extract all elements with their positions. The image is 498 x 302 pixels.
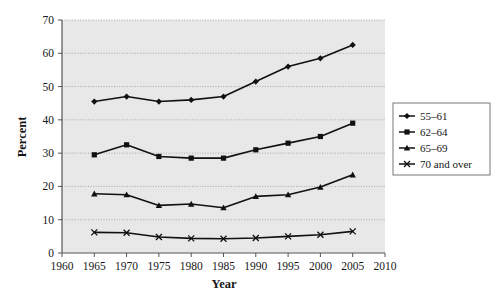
x-tick-label: 1975 <box>147 260 170 272</box>
y-tick-label: 70 <box>43 14 55 26</box>
x-tick-label: 1985 <box>212 260 235 272</box>
x-tick-label: 1995 <box>277 260 300 272</box>
y-tick-label: 10 <box>43 214 55 226</box>
y-axis-title: Percent <box>15 116 29 158</box>
data-point-square <box>189 156 194 161</box>
x-tick-labels: 1960196519701975198019851990199520002005… <box>51 260 397 272</box>
y-tick-label: 50 <box>43 81 55 93</box>
data-point-square <box>253 147 258 152</box>
data-point-square <box>318 134 323 139</box>
legend-item-label: 65–69 <box>420 142 448 154</box>
x-tick-label: 1990 <box>244 260 267 272</box>
plot-area-background <box>62 20 385 253</box>
y-tick-label: 20 <box>43 180 55 192</box>
data-point-square <box>156 154 161 159</box>
x-tick-label: 2005 <box>341 260 364 272</box>
y-tick-label: 60 <box>43 47 55 59</box>
legend: 55–6162–6465–6970 and over <box>393 103 490 175</box>
data-point-square <box>350 121 355 126</box>
data-point-square <box>286 141 291 146</box>
data-point-square <box>404 129 409 134</box>
y-tick-label: 40 <box>43 114 55 126</box>
x-tick-label: 1965 <box>83 260 106 272</box>
chart-svg: 1960196519701975198019851990199520002005… <box>0 0 498 302</box>
y-tick-label: 30 <box>43 147 55 159</box>
data-point-square <box>221 156 226 161</box>
legend-item-label: 55–61 <box>420 110 448 122</box>
legend-item-label: 62–64 <box>420 126 448 138</box>
x-tick-label: 2010 <box>374 260 397 272</box>
x-tick-label: 1960 <box>51 260 74 272</box>
x-tick-label: 1970 <box>115 260 138 272</box>
data-point-square <box>92 152 97 157</box>
x-tick-label: 2000 <box>309 260 332 272</box>
x-axis-title: Year <box>212 277 237 291</box>
legend-item-label: 70 and over <box>420 158 472 170</box>
chart-figure: 1960196519701975198019851990199520002005… <box>0 0 498 302</box>
data-point-square <box>124 142 129 147</box>
y-tick-label: 0 <box>48 247 54 259</box>
x-tick-label: 1980 <box>180 260 203 272</box>
